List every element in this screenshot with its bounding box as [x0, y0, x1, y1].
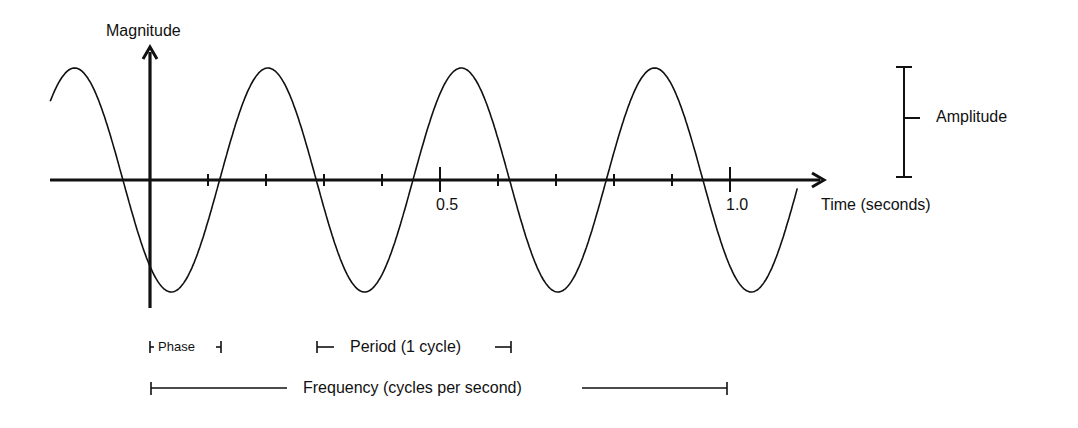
diagram-canvas: [0, 0, 1078, 428]
phase-label: Phase: [158, 339, 195, 354]
amplitude-label: Amplitude: [936, 108, 1007, 126]
x-tick-label-0-5: 0.5: [436, 196, 458, 214]
amplitude-bracket: [896, 67, 920, 177]
x-axis-label: Time (seconds): [821, 196, 931, 214]
frequency-label: Frequency (cycles per second): [303, 379, 522, 397]
period-label: Period (1 cycle): [350, 338, 461, 356]
y-axis-label: Magnitude: [106, 22, 181, 40]
x-tick-label-1-0: 1.0: [726, 196, 748, 214]
